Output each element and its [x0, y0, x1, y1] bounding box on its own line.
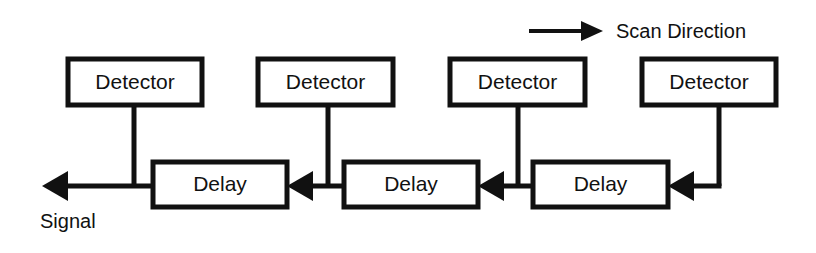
diagram-canvas: Scan Direction DetectorDetectorDetectorD… — [0, 0, 816, 253]
detector-row: DetectorDetectorDetectorDetector — [68, 59, 776, 105]
delay-3-label: Delay — [574, 172, 628, 195]
delay-2: Delay — [344, 162, 478, 207]
delay-1-label: Delay — [193, 172, 247, 195]
detector-2-label: Detector — [286, 70, 365, 93]
signal-output-arrowhead — [42, 171, 68, 201]
scan-direction-label: Scan Direction — [616, 20, 746, 42]
detector-4-label: Detector — [669, 70, 748, 93]
scan-detector-block-diagram: Scan Direction DetectorDetectorDetectorD… — [0, 0, 816, 253]
delay-2-label: Delay — [384, 172, 438, 195]
detector-3: Detector — [450, 59, 585, 105]
scan-direction-legend: Scan Direction — [529, 20, 746, 42]
delay-3: Delay — [533, 162, 668, 207]
detector-1-label: Detector — [95, 70, 174, 93]
delay-row: DelayDelayDelay — [153, 162, 668, 207]
detector-1: Detector — [68, 59, 202, 105]
detector-4: Detector — [642, 59, 776, 105]
detector-2: Detector — [258, 59, 393, 105]
link-delay2-to-delay1-arrowhead — [287, 171, 313, 201]
scan-direction-arrow-head — [581, 21, 603, 41]
signal-output-label: Signal — [40, 210, 96, 232]
detector-3-label: Detector — [478, 70, 557, 93]
link-delay3-to-delay2-arrowhead — [478, 171, 504, 201]
delay-1: Delay — [153, 162, 287, 207]
link-input-to-delay3-arrowhead — [668, 171, 694, 201]
